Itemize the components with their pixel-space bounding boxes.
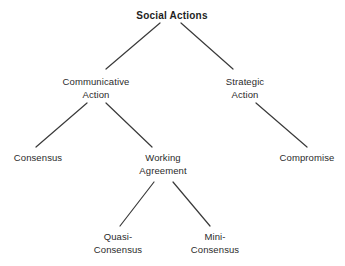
edge-communicative-to-consensus	[36, 103, 87, 147]
edge-social-to-strategic	[181, 23, 233, 69]
node-quasi-consensus: Quasi- Consensus	[94, 231, 142, 256]
node-mini-consensus: Mini- Consensus	[191, 231, 239, 256]
node-compromise: Compromise	[280, 152, 335, 165]
edge-working-to-quasi	[120, 182, 154, 226]
edge-social-to-communicative	[106, 23, 160, 69]
connector-lines-layer	[0, 0, 345, 266]
node-social-actions: Social Actions	[136, 10, 207, 23]
node-communicative-action: Communicative Action	[63, 76, 130, 101]
edge-strategic-to-compromise	[256, 103, 307, 147]
diagram-canvas: Social ActionsCommunicative ActionStrate…	[0, 0, 345, 266]
node-strategic-action: Strategic Action	[226, 76, 264, 101]
edge-communicative-to-working	[106, 103, 152, 147]
node-working-agreement: Working Agreement	[139, 152, 186, 177]
node-consensus: Consensus	[14, 152, 62, 165]
edge-working-to-mini	[173, 182, 210, 226]
